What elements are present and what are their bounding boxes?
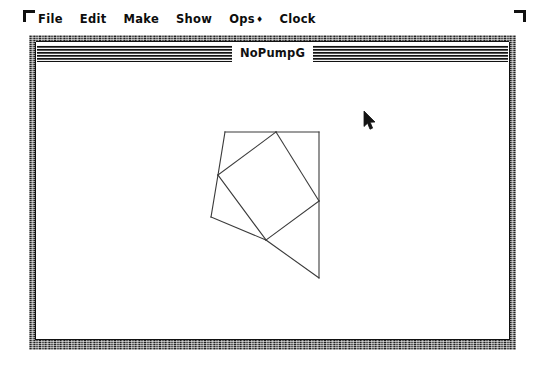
menu-item-ops[interactable]: Ops ♦ [229,12,263,26]
figure-segment-inner-quad-bottom[interactable] [266,201,319,240]
menu-item-clock-label: Clock [279,12,315,26]
window-border-right[interactable] [509,35,516,350]
drawing-canvas[interactable] [37,64,508,339]
desktop-corner-mark-top-right [514,10,526,22]
desktop-background: File Edit Make Show Ops ♦ Clock [0,0,545,373]
mouse-cursor-icon [363,111,377,131]
menu-bar: File Edit Make Show Ops ♦ Clock [38,10,317,28]
figure-segment-inner-quad-top[interactable] [218,132,276,175]
menu-item-edit-label: Edit [80,12,107,26]
window-border-bottom[interactable] [29,339,516,350]
window-frame-inner-line-top [36,41,509,42]
menu-item-ops-label: Ops [229,12,255,26]
application-window: NoPumpG [29,35,516,350]
menu-item-ops-mark: ♦ [256,16,263,24]
menu-item-clock[interactable]: Clock [279,12,316,26]
menu-item-file[interactable]: File [38,12,64,26]
menu-item-edit[interactable]: Edit [80,12,108,26]
window-frame-inner-line-left [35,42,36,340]
figure-segment-bottom-edge-right[interactable] [266,240,319,278]
window-title: NoPumpG [232,46,313,60]
figure-segment-left-edge-upper[interactable] [218,132,225,175]
figure-segment-left-edge-lower[interactable] [211,175,218,217]
menu-item-make[interactable]: Make [123,12,160,26]
window-frame-inner-line-right [509,42,510,340]
window-title-bar[interactable]: NoPumpG [37,43,508,63]
menu-item-make-label: Make [123,12,159,26]
window-frame-inner-line-bottom [36,339,509,340]
title-bar-stripes-right [313,45,508,62]
menu-item-show[interactable]: Show [176,12,213,26]
figure-segment-group [211,132,319,278]
geometry-figure[interactable] [37,64,508,339]
menu-item-show-label: Show [176,12,212,26]
desktop-corner-mark-top-left [23,10,35,22]
title-bar-stripes-left [37,45,232,62]
figure-segment-inner-quad-right[interactable] [276,132,319,201]
menu-item-file-label: File [38,12,63,26]
